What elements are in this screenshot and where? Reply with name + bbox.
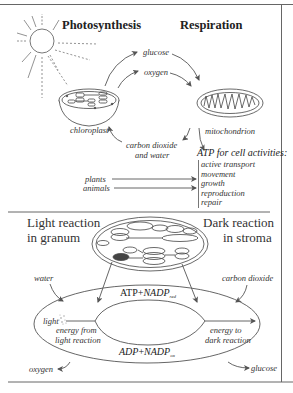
- light-reaction-line1: Light reaction: [27, 216, 100, 229]
- atp-cell-activities-heading: ATP for cell activities:: [197, 148, 287, 158]
- carbon-dioxide-water-line1: carbon dioxide: [126, 141, 177, 150]
- adp-nadp-ox-label: ADP+NADPox: [119, 347, 175, 358]
- energy-from-line2: light reaction: [55, 336, 101, 345]
- atp-nadp-red-label: ATP+NADPred: [120, 288, 176, 299]
- carbon-dioxide-input-label: carbon dioxide: [222, 274, 273, 283]
- energy-to-line2: dark reaction: [205, 336, 251, 345]
- light-reaction-line2: in granum: [27, 231, 80, 244]
- water-input-label: water: [34, 274, 53, 283]
- mitochondrion-label: mitochondrion: [205, 127, 255, 136]
- respiration-title: Respiration: [180, 19, 243, 32]
- oxygen-label: oxygen: [144, 68, 168, 77]
- dark-reaction-line1: Dark reaction: [203, 216, 274, 229]
- cell-activity-item: repair: [201, 198, 271, 208]
- animals-label: animals: [83, 184, 110, 193]
- energy-from-line1: energy from: [56, 326, 97, 335]
- photosynthesis-title: Photosynthesis: [62, 19, 141, 32]
- energy-to-line1: energy to: [210, 326, 242, 335]
- granum-chloroplast-icon: [92, 217, 208, 271]
- glucose-output-label: glucose: [251, 364, 277, 373]
- photosynthesis-respiration-diagram: Photosynthesis Respiration glucose oxyge…: [0, 0, 293, 393]
- glucose-label: glucose: [143, 48, 169, 57]
- light-sparkle-icon: [58, 315, 66, 325]
- cell-activities-list: active transport movement growth reprodu…: [198, 160, 271, 208]
- chloroplast-label: chloroplast: [70, 126, 108, 135]
- carbon-dioxide-water-line2: and water: [135, 151, 169, 160]
- mitochondrion-icon: [197, 89, 263, 117]
- granum-dark: [113, 254, 129, 261]
- dark-reaction-line2: in stroma: [223, 231, 272, 244]
- chloroplast-icon: [59, 89, 119, 126]
- oxygen-output-label: oxygen: [29, 365, 53, 374]
